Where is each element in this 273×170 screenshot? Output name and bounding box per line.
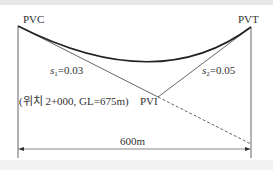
slope-s2-label: s2=0.05 [202, 65, 235, 78]
length-label: 600m [120, 136, 145, 147]
tangent-s2-line [158, 27, 251, 97]
arrow-right-icon [245, 147, 251, 151]
pvc-label: PVC [23, 14, 44, 25]
pvt-label: PVT [238, 14, 259, 25]
pvi-label: PVI [140, 96, 158, 107]
arrow-left-icon [18, 147, 24, 151]
s1-extension-dashed-line [158, 97, 251, 144]
pvi-note: (위치 2+000, GL=675m) [19, 96, 129, 107]
s2-value: =0.05 [210, 64, 235, 76]
slope-s1-label: s1=0.03 [50, 65, 83, 78]
s1-value: =0.03 [58, 64, 83, 76]
